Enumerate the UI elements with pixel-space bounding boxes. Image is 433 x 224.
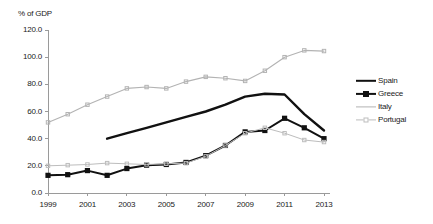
series-line <box>107 94 324 139</box>
series-greece <box>45 116 326 178</box>
data-point-marker <box>302 125 307 130</box>
legend-swatch-icon <box>355 88 377 100</box>
chart-container: % of GDP 120.0100.080.060.040.020.00.0 1… <box>0 0 433 224</box>
data-point-marker <box>45 173 50 178</box>
data-point-marker <box>105 173 110 178</box>
legend-item-spain[interactable]: Spain <box>355 74 433 87</box>
series-spain <box>107 94 324 139</box>
legend-label: Portugal <box>378 115 406 124</box>
legend-swatch-icon <box>355 114 377 126</box>
chart-legend: SpainGreeceItalyPortugal <box>355 74 433 126</box>
series-line <box>48 50 324 122</box>
series-portugal <box>46 126 325 167</box>
legend-item-portugal[interactable]: Portugal <box>355 113 433 126</box>
legend-item-greece[interactable]: Greece <box>355 87 433 100</box>
data-point-marker <box>124 166 129 171</box>
legend-swatch-icon <box>355 75 377 87</box>
legend-swatch-icon <box>355 101 377 113</box>
legend-label: Italy <box>378 102 392 111</box>
series-lines <box>45 49 326 178</box>
legend-label: Spain <box>378 76 397 85</box>
legend-item-italy[interactable]: Italy <box>355 100 433 113</box>
legend-label: Greece <box>378 89 403 98</box>
series-italy <box>46 49 325 124</box>
data-point-marker <box>85 168 90 173</box>
data-point-marker <box>65 172 70 177</box>
series-line <box>48 118 324 175</box>
data-point-marker <box>282 116 287 121</box>
